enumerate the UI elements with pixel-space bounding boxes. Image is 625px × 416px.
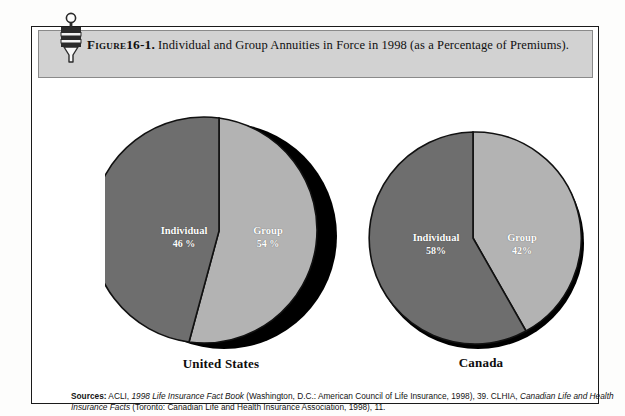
pie-label-individual-us: Individual 46 % — [141, 225, 227, 250]
stamp-knob-icon — [66, 13, 75, 22]
charts-area: Individual 46 % Group 54 % United States… — [65, 113, 625, 375]
figure-title-text: Figure16-1. Individual and Group Annuiti… — [87, 37, 577, 53]
stamp-body-stripe1-icon — [61, 33, 81, 37]
figure-title-banner: Figure16-1. Individual and Group Annuiti… — [38, 30, 593, 78]
sources-text-b: (Washington, D.C.: American Council of L… — [244, 391, 520, 401]
stamp-press-icon — [58, 12, 84, 68]
pie-label-group-ca-text: Group — [507, 232, 537, 243]
chart-title-canada: Canada — [365, 355, 597, 371]
sources-label: Sources: — [71, 391, 107, 401]
stamp-body-top-icon — [61, 27, 81, 33]
sources-italic-1: 1998 Life Insurance Fact Book — [131, 391, 244, 401]
figure-caption: Individual and Group Annuities in Force … — [158, 38, 569, 52]
figure-container: Individual 46 % Group 54 % United States… — [31, 26, 599, 404]
sources-text-c: (Toronto: Canadian Life and Health Insur… — [130, 402, 385, 412]
pie-chart-united-states: Individual 46 % Group 54 % United States — [105, 113, 337, 375]
pie-label-individual-us-text: Individual — [161, 225, 208, 236]
stamp-body-stripe3-icon — [61, 40, 81, 44]
chart-title-united-states: United States — [105, 356, 337, 372]
pie-chart-canada: Individual 58% Group 42% Canada — [365, 127, 597, 389]
figure-word-label: Figure — [87, 37, 126, 52]
sources-text-a: ACLI, — [107, 391, 132, 401]
stamp-body-stripe2-icon — [61, 36, 81, 40]
pie-value-individual-ca: 58% — [393, 245, 479, 258]
pie-value-individual-us: 46 % — [141, 238, 227, 251]
pie-label-group-ca: Group 42% — [489, 232, 555, 257]
sources-italic-2: Canadian Life — [520, 391, 571, 401]
pie-label-group-us: Group 54 % — [233, 225, 303, 250]
pie-value-group-ca: 42% — [489, 245, 555, 258]
sources-footnote: Sources: ACLI, 1998 Life Insurance Fact … — [71, 391, 616, 414]
pie-label-individual-ca: Individual 58% — [393, 232, 479, 257]
pie-label-group-us-text: Group — [253, 225, 283, 236]
pie-label-individual-ca-text: Individual — [413, 232, 460, 243]
stamp-nib-icon — [64, 47, 78, 62]
pie-value-group-us: 54 % — [233, 238, 303, 251]
figure-number: 16-1. — [126, 37, 155, 52]
